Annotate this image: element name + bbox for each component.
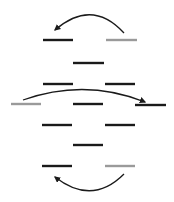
curved-arrow-icon (23, 89, 145, 102)
bars-group (11, 40, 166, 166)
curved-arrow-icon (55, 15, 124, 33)
curved-arrow-icon (55, 174, 124, 191)
reordering-diagram (0, 0, 174, 202)
